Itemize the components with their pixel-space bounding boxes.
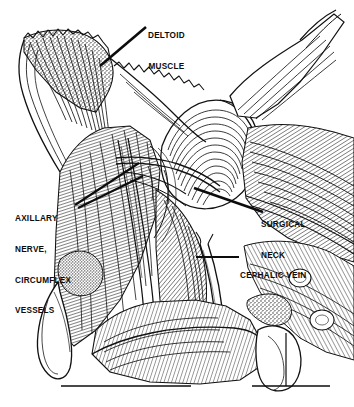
label-deltoid-muscle: DELTOID MUSCLE [148, 11, 185, 93]
label-deltoid-muscle-line1: DELTOID [148, 31, 185, 41]
label-deltoid-muscle-line2: MUSCLE [148, 62, 185, 72]
label-axillary-line1: AXILLARY [15, 214, 71, 224]
label-axillary-line4: VESSELS [15, 306, 71, 316]
label-cephalic-vein: CEPHALIC VEIN [240, 251, 306, 302]
label-cephalic-vein-line1: CEPHALIC VEIN [240, 271, 306, 281]
label-axillary-nerve-circumflex-vessels: AXILLARY NERVE, CIRCUMFLEX VESSELS [15, 194, 71, 337]
label-axillary-line2: NERVE, [15, 245, 71, 255]
anatomical-figure: DELTOID MUSCLE AXILLARY NERVE, CIRCUMFLE… [0, 0, 354, 407]
label-surgical-neck-line1: SURGICAL [261, 220, 306, 230]
label-axillary-line3: CIRCUMFLEX [15, 276, 71, 286]
